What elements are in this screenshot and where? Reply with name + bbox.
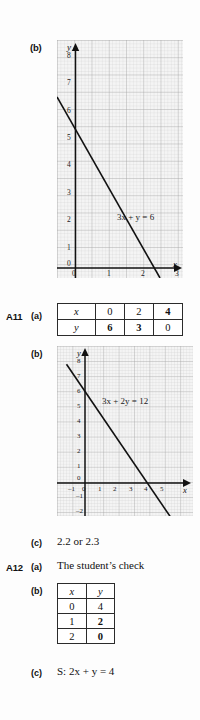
a12-value-table: x y 0 4 1 2 2 0 [57, 583, 115, 644]
graph-top-xtick-3: 3 [175, 269, 179, 278]
a12-header-x: x [58, 584, 87, 599]
a11-r1-c0: 6 [95, 320, 124, 336]
table-row: 2 0 [58, 629, 115, 644]
graph-top-ytick-8: 8 [67, 51, 71, 60]
a12-r0-c1: 4 [86, 599, 115, 614]
a12-r1-c0: 1 [58, 614, 87, 629]
graph-top-x-axis-label: x [173, 259, 177, 269]
a12-r2-c1: 0 [86, 629, 115, 644]
graph-top-ytick-2: 2 [67, 215, 71, 224]
a12-r0-c0: 0 [58, 599, 87, 614]
part-label-a12-a: (a) [31, 562, 42, 572]
graph-bottom-xtick-4: 4 [144, 485, 148, 493]
graph-top-ytick-5: 5 [67, 133, 71, 142]
graph-top-ytick-4: 4 [67, 160, 71, 169]
part-label-a11-b: (b) [31, 349, 43, 359]
a12-c-answer-equation: 2x + y = 4 [69, 665, 114, 677]
graph-bottom-x-axis-label: x [183, 485, 187, 495]
a11-row1-header: y [58, 320, 96, 336]
graph-bottom-ytick-4: 4 [77, 417, 81, 425]
part-label-a12-c: (c) [31, 668, 42, 678]
part-label-a11-c: (c) [31, 538, 42, 548]
graph-bottom-ytick-3: 3 [77, 432, 81, 440]
graph-top-ytick-3: 3 [67, 188, 71, 197]
graph-bottom-xtick-0: 0 [82, 485, 86, 493]
a11-r1-c1: 3 [124, 320, 153, 336]
graph-3x-plus-2y-equals-12: y x 8 7 6 5 4 3 2 1 0 –1 –2 –1 0 1 2 3 4… [57, 346, 193, 516]
graph-bottom-ytick-1: 1 [77, 462, 81, 470]
graph-bottom-ytick-neg1: –1 [76, 492, 83, 500]
graph-top-ytick-7: 7 [67, 78, 71, 87]
a12-r1-c1: 2 [86, 614, 115, 629]
graph-bottom-ytick-2: 2 [77, 447, 81, 455]
a11-r0-c2: 4 [153, 304, 182, 320]
a12-r2-c0: 2 [58, 629, 87, 644]
graph-top-equation-label: 3x + y = 6 [117, 212, 154, 222]
graph-bottom-equation-label: 3x + 2y = 12 [102, 396, 148, 406]
a11-r0-c1: 2 [124, 304, 153, 320]
graph-bottom-xtick-2: 2 [113, 485, 117, 493]
answers-page: (b) y [0, 0, 200, 720]
part-label-q10b: (b) [30, 42, 42, 53]
graph-top-xtick-0: 0 [72, 269, 76, 278]
a11-c-answer: 2.2 or 2.3 [57, 535, 99, 547]
graph-bottom-xtick-3: 3 [129, 485, 133, 493]
graph-top-xtick-2: 2 [141, 269, 145, 278]
graph-top-xtick-1: 1 [107, 269, 111, 278]
table-row: 0 4 [58, 599, 115, 614]
graph-top-ytick-6: 6 [67, 106, 71, 115]
a11-r1-c2: 0 [153, 320, 182, 336]
table-row: x y [58, 584, 115, 599]
graph-top-svg [57, 40, 183, 278]
graph-top-ytick-1: 1 [67, 243, 71, 252]
graph-bottom-ytick-5: 5 [77, 402, 81, 410]
graph-bottom-ytick-6: 6 [77, 387, 81, 395]
graph-bottom-xtick-5: 5 [160, 485, 164, 493]
table-row: 1 2 [58, 614, 115, 629]
a12-c-answer-prefix: S: [57, 665, 69, 677]
graph-bottom-ytick-8: 8 [77, 357, 81, 365]
table-row: x 0 2 4 [58, 304, 183, 320]
graph-bottom-ytick-0: 0 [77, 474, 81, 482]
a11-r0-c0: 0 [95, 304, 124, 320]
a12-header-y: y [86, 584, 115, 599]
a12-c-answer: S: 2x + y = 4 [57, 665, 114, 677]
question-label-a12: A12 [6, 562, 23, 573]
graph-bottom-xtick-neg1: –1 [68, 485, 75, 493]
a11-value-table: x 0 2 4 y 6 3 0 [57, 303, 183, 336]
graph-top-ytick-0: 0 [67, 259, 71, 268]
graph-bottom-ytick-7: 7 [77, 372, 81, 380]
part-label-a11-a: (a) [31, 311, 42, 321]
graph-bottom-ytick-neg2: –2 [76, 507, 83, 515]
graph-3x-plus-y-equals-6: y x 8 7 6 5 4 3 2 1 0 0 1 2 3 3x + y = 6 [57, 40, 183, 278]
table-row: y 6 3 0 [58, 320, 183, 336]
question-label-a11: A11 [6, 311, 22, 322]
part-label-a12-b: (b) [31, 586, 43, 596]
a11-row0-header: x [58, 304, 96, 320]
graph-bottom-xtick-1: 1 [98, 485, 102, 493]
a12-a-answer: The student’s check [57, 559, 144, 571]
